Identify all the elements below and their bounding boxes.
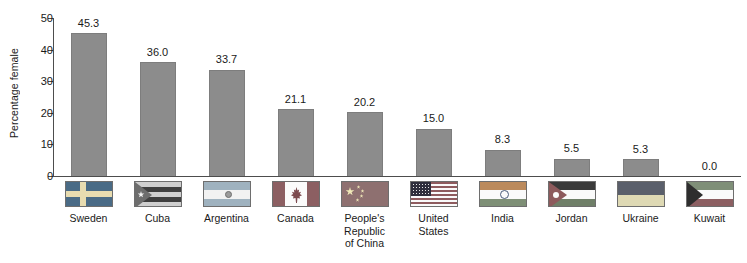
bar[interactable]	[347, 112, 383, 176]
category-label: Canada	[261, 212, 330, 225]
flag-argentina-icon	[203, 181, 251, 207]
bar-group: 8.3	[468, 18, 537, 176]
flag-canada-icon	[272, 181, 320, 207]
category-argentina: Argentina	[192, 181, 261, 225]
plot-area: 45.3 36.0 33.7 21.1 20.2 15.0 8.3	[54, 18, 741, 176]
bar-group: 45.3	[54, 18, 123, 176]
bar-group: 5.3	[606, 18, 675, 176]
flag-kuwait-icon	[686, 181, 734, 207]
category-china: People's Republic of China	[330, 181, 399, 250]
flag-china-icon	[341, 181, 389, 207]
category-label: Ukraine	[606, 212, 675, 225]
bar-value-label: 5.3	[633, 143, 648, 155]
category-sweden: Sweden	[54, 181, 123, 225]
bar[interactable]	[209, 70, 245, 177]
y-axis-tick-label: 30	[27, 75, 53, 87]
bar-value-label: 21.1	[285, 93, 306, 105]
category-canada: Canada	[261, 181, 330, 225]
category-ukraine: Ukraine	[606, 181, 675, 225]
category-label: Kuwait	[675, 212, 744, 225]
category-india: India	[468, 181, 537, 225]
bar-value-label: 20.2	[354, 96, 375, 108]
bar-group: 33.7	[192, 18, 261, 176]
category-jordan: Jordan	[537, 181, 606, 225]
bar-value-label: 8.3	[495, 133, 510, 145]
bar-value-label: 45.3	[78, 17, 99, 29]
category-label: India	[468, 212, 537, 225]
flag-ukraine-icon	[617, 181, 665, 207]
category-label: People's Republic of China	[330, 212, 399, 250]
bar-value-label: 0.0	[702, 160, 717, 172]
bar[interactable]	[485, 150, 521, 176]
bar-group: 5.5	[537, 18, 606, 176]
bar-group: 20.2	[330, 18, 399, 176]
bar-value-label: 33.7	[216, 53, 237, 65]
bar[interactable]	[71, 33, 107, 176]
bar-value-label: 36.0	[147, 46, 168, 58]
category-label: Sweden	[54, 212, 123, 225]
category-label: Jordan	[537, 212, 606, 225]
y-axis-tick-label: 20	[27, 107, 53, 119]
bar-group: 36.0	[123, 18, 192, 176]
bar-value-label: 5.5	[564, 142, 579, 154]
y-axis-tick-label: 10	[27, 138, 53, 150]
y-axis-tick-label: 40	[27, 44, 53, 56]
bar-group: 21.1	[261, 18, 330, 176]
bar[interactable]	[554, 159, 590, 176]
category-kuwait: Kuwait	[675, 181, 744, 225]
flag-jordan-icon	[548, 181, 596, 207]
category-label: Argentina	[192, 212, 261, 225]
flag-united-states-icon	[410, 181, 458, 207]
category-label: United States	[399, 212, 468, 237]
bar-group: 0.0	[675, 18, 744, 176]
category-label: Cuba	[123, 212, 192, 225]
bar[interactable]	[623, 159, 659, 176]
y-axis-tick-label: 0	[27, 170, 53, 182]
bar[interactable]	[140, 62, 176, 176]
category-cuba: Cuba	[123, 181, 192, 225]
flag-sweden-icon	[65, 181, 113, 207]
bar[interactable]	[416, 129, 452, 176]
flag-cuba-icon	[134, 181, 182, 207]
bar-chart: Percentage female 0 10 20 30 40 50 45.3 …	[0, 0, 747, 263]
category-united-states: United States	[399, 181, 468, 237]
bar-group: 15.0	[399, 18, 468, 176]
bar-value-label: 15.0	[423, 112, 444, 124]
bar[interactable]	[278, 109, 314, 176]
y-axis-title: Percentage female	[6, 18, 22, 168]
flag-india-icon	[479, 181, 527, 207]
y-axis-tick-label: 50	[27, 12, 53, 24]
x-axis-line	[53, 176, 741, 177]
